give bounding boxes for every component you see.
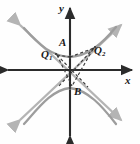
point-label-b: B: [74, 86, 81, 97]
q2-base: Q: [94, 44, 102, 56]
q1-base: Q: [41, 48, 49, 60]
point-Q1-marker: [55, 53, 57, 55]
q2-subscript: 2: [102, 50, 105, 57]
q1-subscript: 1: [49, 54, 52, 61]
diagram-canvas: [0, 0, 140, 144]
y-axis-label: y: [59, 3, 64, 14]
point-label-q2: Q2: [94, 45, 105, 58]
point-label-q1: Q1: [41, 49, 52, 62]
point-label-a: A: [59, 37, 66, 48]
point-A-marker: [69, 56, 71, 58]
x-axis-label: x: [125, 75, 131, 86]
point-B-marker: [69, 87, 71, 89]
axes-group: [8, 8, 132, 136]
hyperbola-diagram: y x A B Q1 Q2: [0, 0, 140, 144]
